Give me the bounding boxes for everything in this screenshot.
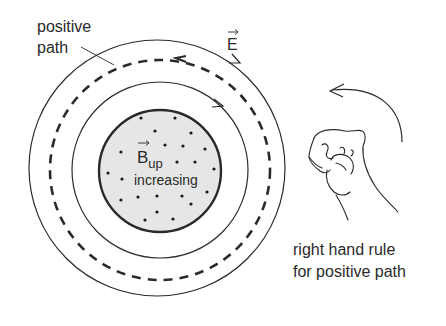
field-dot (175, 160, 178, 163)
field-dot (119, 198, 122, 201)
faraday-diagram: positive path E Bup increasing right han… (0, 0, 446, 326)
field-dot (171, 217, 174, 220)
field-dot (155, 194, 158, 197)
field-dot (136, 195, 139, 198)
right-hand-rule-label-1: right hand rule (293, 241, 395, 258)
e-field-arrow-icon (229, 54, 240, 63)
field-dot (189, 131, 192, 134)
field-dot (181, 144, 184, 147)
field-dot (143, 218, 146, 221)
field-dot (120, 177, 123, 180)
field-dot (189, 202, 192, 205)
right-hand-rule-label-2: for positive path (293, 263, 406, 280)
field-dot (205, 190, 208, 193)
field-dot (193, 160, 196, 163)
field-dot (173, 116, 176, 119)
field-dot (119, 150, 122, 153)
field-dot (155, 210, 158, 213)
field-dot (163, 143, 166, 146)
field-dot (139, 116, 142, 119)
field-dot (203, 147, 206, 150)
field-dot (153, 129, 156, 132)
e-field-label: E (227, 36, 238, 53)
rotation-arrowhead-icon (330, 84, 344, 97)
positive-path-label-1: positive (37, 18, 91, 35)
e-vector-arrow-icon (228, 30, 238, 35)
field-dot (180, 194, 183, 197)
field-dot (106, 171, 109, 174)
right-hand-fist-icon (309, 130, 398, 220)
magnetic-field-disk (99, 110, 221, 232)
positive-path-label-2: path (37, 39, 68, 56)
field-dot (212, 167, 215, 170)
b-increasing-label: increasing (134, 172, 198, 188)
